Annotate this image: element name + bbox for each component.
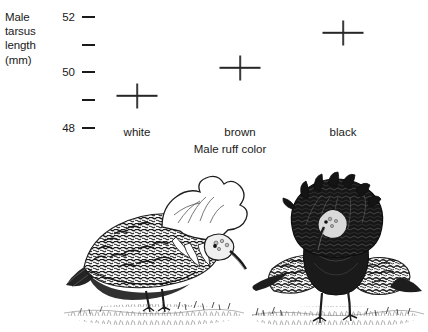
bird-illustration	[0, 163, 428, 332]
y-axis-tick-51	[55, 38, 95, 52]
bill	[230, 251, 246, 269]
data-point-black	[322, 20, 364, 46]
mean-marker-horizontal	[117, 95, 158, 97]
y-axis-tick-50: 50	[55, 65, 95, 79]
ground-shading	[64, 301, 244, 326]
y-axis-tick-mark	[82, 99, 95, 101]
ground-shading	[250, 306, 424, 328]
data-point-brown	[219, 55, 261, 81]
x-axis-tick-label-white: white	[124, 126, 151, 138]
y-axis-tick-52: 52	[55, 10, 95, 24]
y-axis-tick-label-50: 50	[35, 65, 75, 79]
x-axis-title: Male ruff color	[194, 143, 267, 155]
y-axis-title: Male tarsus length (mm)	[5, 10, 36, 67]
x-axis-tick-label-black: black	[330, 126, 357, 138]
y-axis-tick-mark	[82, 44, 95, 46]
y-axis-tick-mark	[82, 127, 95, 129]
black-ruffed-ruff-drawing	[248, 163, 428, 332]
data-point-white	[116, 83, 158, 109]
y-axis-tick-48: 48	[55, 121, 95, 135]
mean-marker-horizontal	[323, 32, 364, 34]
y-axis-tick-mark	[82, 16, 95, 18]
white-ruffed-ruff-drawing	[58, 163, 248, 332]
eye	[213, 244, 217, 248]
y-axis-tick-label-52: 52	[35, 10, 75, 24]
mean-marker-horizontal	[220, 67, 261, 69]
eye	[324, 220, 328, 224]
chart-plot-area: Male tarsus length (mm) 52 50 48	[0, 0, 428, 165]
y-axis-tick-label-48: 48	[35, 121, 75, 135]
figure: Male tarsus length (mm) 52 50 48	[0, 0, 428, 332]
x-axis-tick-label-brown: brown	[224, 126, 255, 138]
y-axis-tick-mark	[82, 71, 95, 73]
y-axis-tick-49	[55, 93, 95, 107]
